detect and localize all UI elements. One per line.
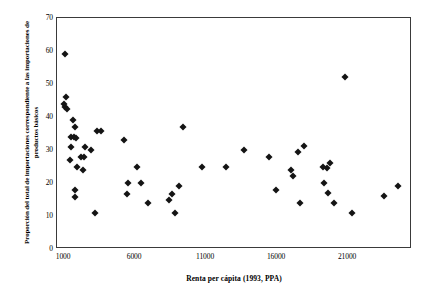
- data-point: [320, 179, 327, 186]
- data-point: [325, 189, 332, 196]
- data-point: [120, 137, 127, 144]
- x-axis-title: Renta per cápita (1993, PPA): [56, 274, 412, 283]
- data-point: [171, 209, 178, 216]
- data-point: [342, 74, 349, 81]
- data-point: [124, 179, 131, 186]
- x-tick-label: 16000: [256, 252, 296, 261]
- x-tick-label: 11000: [185, 252, 225, 261]
- data-point: [198, 164, 205, 171]
- data-point: [349, 209, 356, 216]
- data-point: [295, 149, 302, 156]
- data-point: [123, 190, 130, 197]
- data-point: [97, 127, 104, 134]
- data-point: [222, 164, 229, 171]
- data-point: [63, 105, 70, 112]
- data-point: [301, 142, 308, 149]
- data-point: [73, 135, 80, 142]
- data-point: [180, 123, 187, 130]
- x-tick-label: 21000: [327, 252, 367, 261]
- data-point: [88, 146, 95, 153]
- y-tick-label: 60: [35, 46, 53, 55]
- y-tick-label: 10: [35, 211, 53, 220]
- data-point: [71, 123, 78, 130]
- data-point: [92, 210, 99, 217]
- data-point: [144, 200, 151, 207]
- plot-area: [56, 17, 411, 248]
- data-point: [265, 153, 272, 160]
- scatter-chart-figure: Proporción del total de importaciones co…: [0, 0, 425, 296]
- x-tick-label: 1000: [43, 252, 83, 261]
- data-point: [380, 193, 387, 200]
- y-tick-label: 70: [35, 13, 53, 22]
- data-point: [61, 51, 68, 58]
- data-point: [68, 143, 75, 150]
- data-point: [330, 199, 337, 206]
- data-point: [272, 186, 279, 193]
- y-tick-label: 20: [35, 178, 53, 187]
- data-point: [176, 183, 183, 190]
- data-point: [71, 194, 78, 201]
- data-point: [241, 146, 248, 153]
- data-point: [66, 156, 73, 163]
- y-tick-label: 40: [35, 112, 53, 121]
- data-point: [296, 199, 303, 206]
- data-point: [289, 173, 296, 180]
- data-point: [72, 186, 79, 193]
- y-tick-label: 30: [35, 145, 53, 154]
- data-point: [133, 163, 140, 170]
- y-tick-label: 50: [35, 79, 53, 88]
- data-point: [137, 179, 144, 186]
- x-tick-label: 6000: [114, 252, 154, 261]
- data-point: [394, 183, 401, 190]
